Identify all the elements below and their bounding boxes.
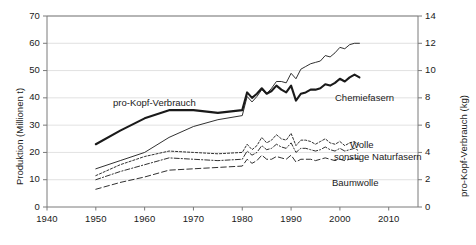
y-axis-right-tick: 2 (425, 173, 430, 184)
series-annotation-3: sonstige Naturfasern (334, 151, 422, 162)
x-axis-tick: 1950 (76, 213, 116, 224)
y-axis-right-tick: 6 (425, 119, 430, 130)
chart-plot (0, 0, 476, 245)
y-axis-left-tick: 50 (0, 64, 40, 75)
y-axis-right-tick: 0 (425, 201, 430, 212)
y-axis-left-tick: 0 (0, 201, 40, 212)
x-axis-tick: 1970 (173, 213, 213, 224)
y-axis-right-tick: 12 (425, 37, 436, 48)
y-axis-right-tick: 10 (425, 64, 436, 75)
y-axis-left-tick: 10 (0, 173, 40, 184)
series-line-3 (96, 143, 360, 180)
y-axis-left-tick: 30 (0, 119, 40, 130)
x-axis-tick: 2000 (320, 213, 360, 224)
y-axis-left-tick: 20 (0, 146, 40, 157)
y-axis-left-tick: 60 (0, 37, 40, 48)
x-axis-tick: 1960 (125, 213, 165, 224)
series-lines (96, 43, 360, 189)
series-annotation-2: Wolle (350, 139, 374, 150)
x-axis-tick: 1990 (271, 213, 311, 224)
series-line-0 (96, 75, 360, 145)
y-axis-left-tick: 40 (0, 91, 40, 102)
y-axis-right-tick: 8 (425, 91, 430, 102)
series-annotation-4: Baumwolle (332, 177, 378, 188)
x-axis-tick: 1940 (27, 213, 67, 224)
series-line-2 (96, 133, 360, 175)
series-annotation-1: Chemiefasern (335, 92, 394, 103)
x-axis-tick: 2010 (369, 213, 409, 224)
y-axis-right-tick: 14 (425, 10, 436, 21)
y-axis-left-tick: 70 (0, 10, 40, 21)
series-annotation-0: pro-Kopf-Verbrauch (113, 97, 196, 108)
chart-container: Produktion (Millionen t) pro-Kopf-Verbra… (0, 0, 476, 245)
y-axis-right-tick: 4 (425, 146, 430, 157)
x-axis-tick: 1980 (222, 213, 262, 224)
